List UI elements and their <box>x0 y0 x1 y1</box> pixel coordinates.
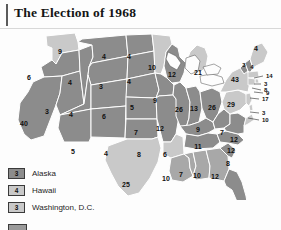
legend-swatch-partial <box>8 224 27 230</box>
vote-label-ia: 9 <box>153 97 157 104</box>
election-map-page: The Election of 1968 9640344346544457825… <box>0 0 281 230</box>
vote-label-pa: 29 <box>227 101 235 108</box>
vote-label-ks: 7 <box>134 129 138 136</box>
vote-label-or: 6 <box>27 74 31 81</box>
vote-label-mo: 12 <box>156 125 164 132</box>
legend-swatch-alaska: 3 <box>8 168 25 179</box>
vote-label-mn: 10 <box>148 64 156 71</box>
legend-label-alaska: Alaska <box>32 169 56 178</box>
vote-label-ms: 7 <box>179 171 183 178</box>
vote-label-il: 26 <box>175 106 183 113</box>
vote-label-wy: 3 <box>99 83 103 90</box>
state-ok <box>125 119 158 139</box>
vote-label-va: 12 <box>230 136 238 143</box>
vote-label-co: 6 <box>102 113 106 120</box>
vote-label-ga: 12 <box>211 173 219 180</box>
legend-item: 4 Hawaii <box>8 183 138 198</box>
map-legend: 3 Alaska 4 Hawaii 3 Washington, D.C. <box>8 166 138 217</box>
vote-label-mi: 21 <box>194 69 202 76</box>
vote-label-ky: 9 <box>196 126 200 133</box>
vote-label-tn: 11 <box>194 143 202 150</box>
leader-line-ct <box>252 88 261 90</box>
vote-label-nc: 12 <box>227 147 235 154</box>
vote-label-la: 10 <box>162 175 170 182</box>
vote-label-wv: 7 <box>220 129 224 136</box>
state-nm <box>91 106 126 138</box>
vote-label-az: 5 <box>71 148 75 155</box>
legend-label-hawaii: Hawaii <box>32 186 56 195</box>
title-divider <box>0 28 281 29</box>
vote-label-me: 4 <box>254 45 258 52</box>
vote-label-wi: 12 <box>168 71 176 78</box>
vote-label-id: 4 <box>68 79 72 86</box>
legend-swatch-dc: 3 <box>8 202 25 213</box>
state-ri <box>255 79 259 83</box>
legend-item: 3 Washington, D.C. <box>8 200 138 215</box>
callout-label-nj: 17 <box>262 96 269 102</box>
state-pa <box>222 90 248 114</box>
state-ct <box>248 78 255 85</box>
vote-label-nm: 4 <box>104 150 108 157</box>
vote-label-nv: 3 <box>45 108 49 115</box>
vote-label-oh: 26 <box>208 104 216 111</box>
page-title: The Election of 1968 <box>14 5 136 21</box>
callout-label-ma: 14 <box>266 73 273 79</box>
vote-label-ny: 43 <box>231 76 239 83</box>
state-ca <box>18 76 62 140</box>
vote-label-mt: 4 <box>102 53 106 60</box>
legend-label-dc: Washington, D.C. <box>32 203 94 212</box>
vote-label-nd: 4 <box>127 53 131 60</box>
callout-label-md: 10 <box>262 117 269 123</box>
leader-line-nysm <box>254 92 263 93</box>
vote-label-ar: 6 <box>163 151 167 158</box>
state-az <box>58 109 91 142</box>
callout-label-de: 3 <box>262 110 266 116</box>
callout-label-nysm: 9 <box>266 90 270 96</box>
leader-line-de <box>250 112 259 113</box>
vote-label-ut: 4 <box>69 111 73 118</box>
state-md <box>244 114 254 126</box>
legend-swatch-hawaii: 4 <box>8 185 25 196</box>
vote-label-al: 10 <box>193 172 201 179</box>
vote-label-ca: 40 <box>20 120 28 127</box>
vote-label-wa: 9 <box>58 48 62 55</box>
state-nj <box>246 93 252 106</box>
vote-label-ok: 8 <box>137 151 141 158</box>
legend-item: 3 Alaska <box>8 166 138 181</box>
vote-label-sc: 8 <box>226 160 230 167</box>
title-rule <box>6 4 8 26</box>
state-tn <box>184 133 220 149</box>
vote-label-ne: 5 <box>130 104 134 111</box>
vote-label-in: 13 <box>190 105 198 112</box>
vote-label-sd: 4 <box>127 78 131 85</box>
state-fl <box>224 169 248 200</box>
